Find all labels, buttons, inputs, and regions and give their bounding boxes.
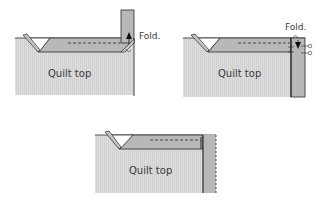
binding-strip [38, 38, 134, 52]
binding-strip [208, 38, 291, 52]
quilt-top-label: Quilt top [129, 165, 172, 176]
binding-right-edge [203, 135, 216, 193]
binding-fold-diagram: Fold. Quilt top Fold. Quilt top [0, 0, 324, 205]
panel-step3: Quilt top [95, 131, 216, 193]
pin-icon [308, 44, 312, 48]
panel-step1: Fold. Quilt top [15, 10, 160, 96]
fold-label: Fold. [139, 31, 160, 41]
quilt-top-label: Quilt top [48, 68, 91, 79]
pin-icon [308, 51, 312, 55]
fold-label: Fold. [285, 22, 306, 32]
panel-step2: Fold. Quilt top [183, 22, 312, 97]
quilt-top-label: Quilt top [218, 68, 261, 79]
binding-strip [119, 135, 203, 149]
